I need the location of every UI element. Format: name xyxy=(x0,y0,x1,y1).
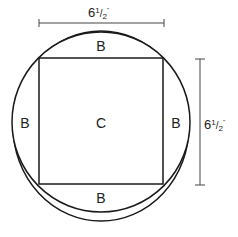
top-dimension-label: 61/2" xyxy=(88,5,109,21)
label-left-segment: B xyxy=(20,115,29,131)
label-bottom-segment: B xyxy=(96,190,105,206)
label-right-segment: B xyxy=(171,115,180,131)
label-center-square: C xyxy=(96,115,106,131)
right-dimension-label: 61/2" xyxy=(204,117,225,133)
label-top-segment: B xyxy=(96,38,105,54)
circle-square-diagram: 61/2" 61/2" B B C B B xyxy=(0,0,238,237)
